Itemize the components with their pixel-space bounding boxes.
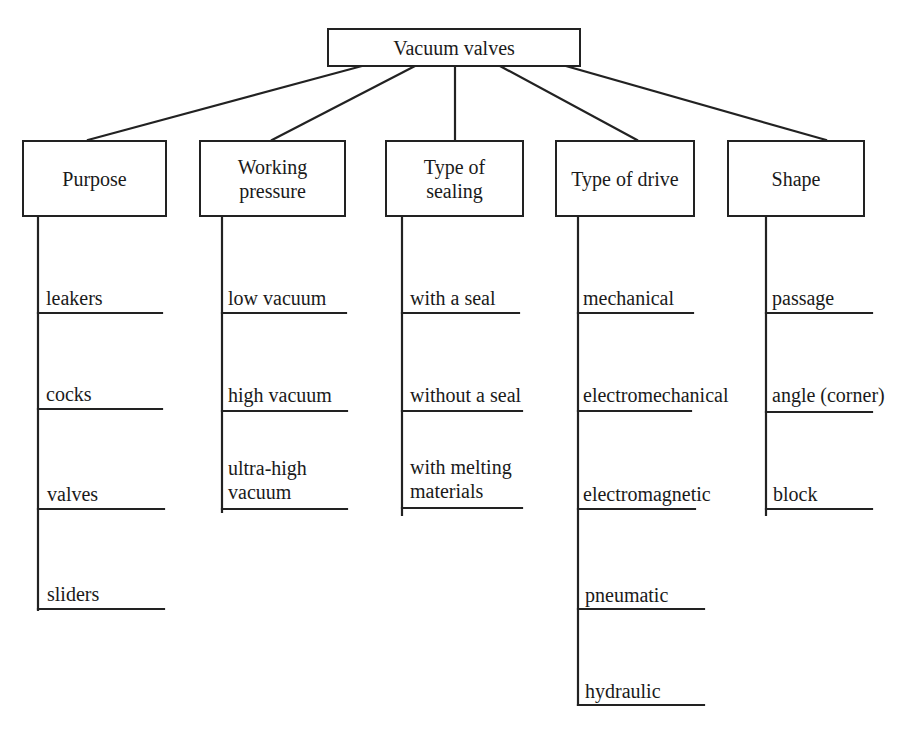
item-label: without a seal xyxy=(410,383,521,407)
item-label: materials xyxy=(410,479,512,503)
root-node-vacuum-valves: Vacuum valves xyxy=(327,28,581,67)
list-item: low vacuum xyxy=(228,286,326,310)
category-label: Shape xyxy=(772,167,821,191)
list-item: high vacuum xyxy=(228,383,332,407)
category-label: Working xyxy=(238,155,308,179)
list-item: passage xyxy=(772,286,834,310)
list-item: pneumatic xyxy=(585,583,668,607)
category-type-of-sealing: Type of sealing xyxy=(385,140,524,217)
category-label: Type of xyxy=(424,155,485,179)
root-label: Vacuum valves xyxy=(393,36,515,60)
item-label: valves xyxy=(47,482,98,506)
list-item: mechanical xyxy=(583,286,674,310)
list-item: block xyxy=(773,482,817,506)
item-label: ultra-high xyxy=(228,456,307,480)
item-label: cocks xyxy=(46,382,92,406)
item-label: with a seal xyxy=(410,286,496,310)
list-item: electromechanical xyxy=(583,383,728,407)
item-label: with melting xyxy=(410,455,512,479)
list-item: without a seal xyxy=(410,383,521,407)
list-item: with a seal xyxy=(410,286,496,310)
list-item: cocks xyxy=(46,382,92,406)
item-label: passage xyxy=(772,286,834,310)
category-label: sealing xyxy=(424,179,485,203)
category-working-pressure: Working pressure xyxy=(199,140,346,217)
item-label: vacuum xyxy=(228,480,307,504)
category-type-of-drive: Type of drive xyxy=(555,140,695,217)
item-label: mechanical xyxy=(583,286,674,310)
item-label: low vacuum xyxy=(228,286,326,310)
list-item: electromagnetic xyxy=(583,482,711,506)
list-item: valves xyxy=(47,482,98,506)
list-item: angle (corner) xyxy=(772,383,885,407)
category-label: Purpose xyxy=(62,167,126,191)
category-label: Type of drive xyxy=(571,167,678,191)
category-purpose: Purpose xyxy=(22,140,167,217)
category-label: pressure xyxy=(238,179,308,203)
item-label: leakers xyxy=(46,286,103,310)
item-label: electromechanical xyxy=(583,383,728,407)
classification-diagram: Vacuum valves Purpose Working pressure T… xyxy=(0,0,921,730)
item-label: sliders xyxy=(47,582,99,606)
connector-lines xyxy=(0,0,921,730)
list-item: hydraulic xyxy=(585,679,661,703)
item-label: hydraulic xyxy=(585,679,661,703)
item-label: high vacuum xyxy=(228,383,332,407)
item-label: pneumatic xyxy=(585,583,668,607)
category-shape: Shape xyxy=(727,140,865,217)
item-label: block xyxy=(773,482,817,506)
item-label: electromagnetic xyxy=(583,482,711,506)
item-label: angle (corner) xyxy=(772,383,885,407)
list-item: sliders xyxy=(47,582,99,606)
list-item: with melting materials xyxy=(410,455,512,503)
list-item: leakers xyxy=(46,286,103,310)
list-item: ultra-high vacuum xyxy=(228,456,307,504)
